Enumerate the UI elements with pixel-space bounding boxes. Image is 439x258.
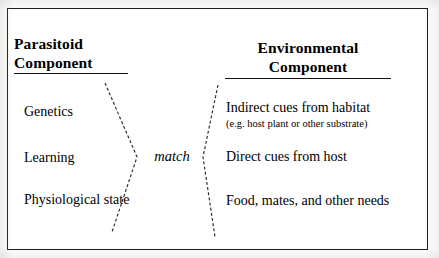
left-header-line2: Component: [14, 53, 174, 72]
right-header-underline: [225, 78, 391, 79]
right-entry-direct-cues: Direct cues from host: [226, 148, 347, 165]
right-header-line1: Environmental: [222, 38, 394, 57]
right-entry-indirect-cues: Indirect cues from habitat (e.g. host pl…: [226, 99, 370, 130]
left-header-line1: Parasitoid: [14, 34, 174, 53]
figure-container: Parasitoid Component Genetics Learning P…: [0, 0, 439, 258]
left-header-underline: [14, 73, 128, 74]
match-label: match: [146, 148, 198, 165]
right-column-header: Environmental Component: [222, 38, 394, 76]
right-header-line2: Component: [222, 57, 394, 76]
left-entry-physiological-state: Physiological state: [24, 191, 134, 208]
right-entry-indirect-cues-label: Indirect cues from habitat: [226, 100, 370, 115]
right-entry-indirect-cues-sublabel: (e.g. host plant or other substrate): [226, 117, 370, 130]
left-entry-learning: Learning: [24, 149, 75, 166]
right-entry-food-mates-needs: Food, mates, and other needs: [226, 192, 389, 209]
left-column-header: Parasitoid Component: [14, 34, 174, 72]
left-entry-genetics: Genetics: [24, 103, 73, 120]
